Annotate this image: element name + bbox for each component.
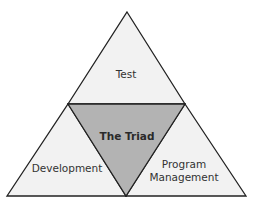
program-label: Program	[162, 158, 206, 170]
test-segment	[68, 12, 185, 104]
development-label: Development	[32, 162, 103, 174]
management-label: Management	[149, 171, 218, 183]
triad-diagram: Test The Triad Development Program Manag…	[0, 0, 254, 208]
triad-label: The Triad	[100, 130, 155, 142]
test-label: Test	[115, 68, 137, 80]
